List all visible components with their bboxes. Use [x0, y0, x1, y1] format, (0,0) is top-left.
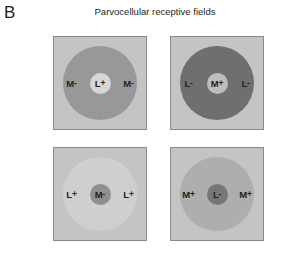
receptive-field-top-right: L- M+ L-	[170, 36, 264, 130]
rf-label-center: M+	[207, 78, 228, 89]
receptive-field-bottom-right: M+ L- M+	[170, 147, 264, 241]
rf-label-row: L- M+ L-	[170, 75, 264, 91]
rf-label-left: L+	[60, 189, 83, 200]
rf-label-right: L-	[234, 78, 257, 89]
panel-letter: B	[4, 3, 15, 22]
rf-label-left: L-	[177, 78, 200, 89]
receptive-field-grid: M- L+ M- L- M+ L- L+ M- L+	[53, 36, 264, 241]
figure-title: Parvocellular receptive fields	[30, 6, 280, 18]
receptive-field-top-left: M- L+ M-	[53, 36, 147, 130]
rf-label-right: L+	[117, 189, 140, 200]
rf-label-left: M-	[60, 78, 83, 89]
rf-label-row: L+ M- L+	[53, 186, 147, 202]
rf-label-center: M-	[90, 189, 111, 200]
rf-label-left: M+	[177, 189, 200, 200]
figure-panel-b: B Parvocellular receptive fields M- L+ M…	[0, 0, 300, 257]
rf-label-center: L-	[207, 189, 228, 200]
rf-label-center: L+	[90, 78, 111, 89]
rf-label-row: M- L+ M-	[53, 75, 147, 91]
receptive-field-bottom-left: L+ M- L+	[53, 147, 147, 241]
rf-label-right: M-	[117, 78, 140, 89]
rf-label-right: M+	[234, 189, 257, 200]
rf-label-row: M+ L- M+	[170, 186, 264, 202]
